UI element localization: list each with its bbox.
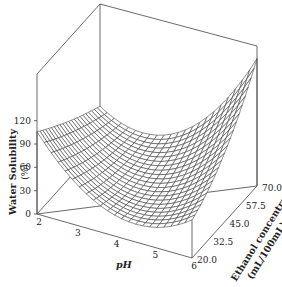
- z-axis-unit: (%): [20, 164, 30, 180]
- svg-text:57.5: 57.5: [246, 201, 266, 211]
- surface-plot: 03060901202345620.032.545.057.570.0 Wate…: [0, 0, 282, 287]
- svg-text:20.0: 20.0: [197, 255, 217, 265]
- x-axis-label: pH: [116, 259, 133, 270]
- svg-text:90: 90: [20, 139, 32, 149]
- response-surface-mesh: [37, 59, 257, 228]
- svg-text:30: 30: [20, 186, 32, 196]
- svg-text:120: 120: [14, 116, 31, 126]
- svg-text:2: 2: [36, 217, 42, 227]
- svg-text:0: 0: [25, 209, 31, 219]
- svg-text:3: 3: [75, 228, 81, 238]
- svg-text:4: 4: [114, 239, 120, 249]
- z-axis-label: Water Solubility: [7, 129, 18, 216]
- svg-text:45.0: 45.0: [230, 219, 250, 229]
- svg-text:5: 5: [152, 250, 158, 260]
- svg-text:70.0: 70.0: [262, 183, 282, 193]
- svg-text:32.5: 32.5: [213, 237, 233, 247]
